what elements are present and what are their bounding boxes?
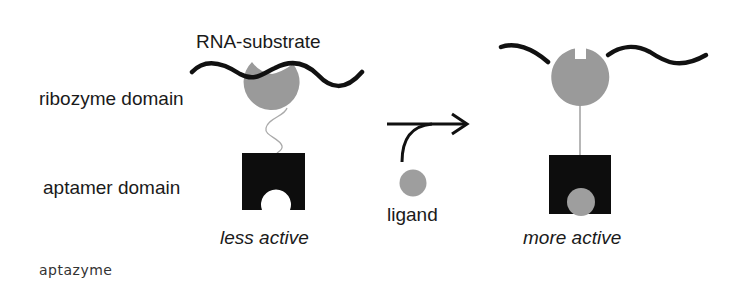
ribozyme-domain-right (551, 49, 609, 107)
more-active-label: more active (523, 227, 621, 249)
aptamer-domain-label: aptamer domain (43, 177, 180, 199)
flexible-linker (266, 108, 287, 153)
aptamer-domain-left (242, 153, 305, 210)
rna-substrate-label: RNA-substrate (196, 31, 321, 53)
ribozyme-domain-label: ribozyme domain (39, 88, 184, 110)
cleaved-strand-left (501, 45, 548, 62)
figure-caption: aptazyme (39, 262, 112, 278)
arrow-curve (402, 124, 432, 162)
active-aptazyme (501, 45, 706, 216)
less-active-label: less active (220, 227, 309, 249)
ligand-label: ligand (387, 204, 438, 226)
inactive-aptazyme (192, 62, 362, 210)
bound-ligand (567, 188, 595, 216)
binding-arrow (387, 114, 467, 162)
cleaved-strand-right (608, 47, 706, 63)
ligand-circle (400, 170, 427, 197)
aptazyme-diagram (0, 0, 747, 283)
